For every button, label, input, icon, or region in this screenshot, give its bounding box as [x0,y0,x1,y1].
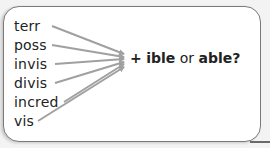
plus-sign: + [130,50,142,66]
suffix-ible: ible [146,50,175,66]
suffix-question: + ible or able? [130,49,240,67]
connector-or: or [180,50,194,66]
arrow-icon [64,64,124,102]
arrow-icon [52,26,124,54]
arrows-group [0,0,270,148]
arrow-icon [52,45,124,57]
arrow-icon [55,59,124,64]
suffix-able: able? [199,50,241,66]
